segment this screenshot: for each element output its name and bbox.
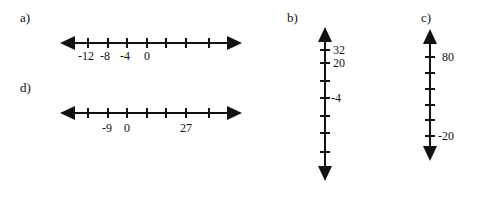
- problem-label-c: c): [421, 10, 431, 26]
- arrow-down-icon: [423, 146, 437, 161]
- number-line-a: [60, 36, 242, 50]
- tick-label: -8: [100, 49, 110, 64]
- arrow-right-icon: [227, 36, 242, 50]
- number-line-c: [423, 29, 437, 161]
- number-line-d: [60, 106, 242, 120]
- problem-label-a: a): [20, 10, 30, 26]
- tick-label: -12: [78, 49, 94, 64]
- tick-label: 20: [333, 56, 345, 71]
- problem-label-d: d): [20, 80, 31, 96]
- tick-label: 27: [180, 121, 192, 136]
- tick-label: -4: [120, 49, 130, 64]
- arrow-left-icon: [60, 106, 75, 120]
- arrow-left-icon: [60, 36, 75, 50]
- arrow-down-icon: [318, 166, 332, 181]
- number-lines-figure: [0, 0, 478, 198]
- number-line-b: [318, 27, 332, 181]
- arrow-right-icon: [227, 106, 242, 120]
- tick-label: 0: [124, 121, 130, 136]
- problem-label-b: b): [287, 10, 298, 26]
- arrow-up-icon: [423, 29, 437, 44]
- tick-label: -4: [331, 91, 341, 106]
- tick-label: 80: [442, 50, 454, 65]
- arrow-up-icon: [318, 27, 332, 42]
- tick-label: -9: [102, 121, 112, 136]
- tick-label: -20: [438, 129, 454, 144]
- tick-label: 0: [144, 49, 150, 64]
